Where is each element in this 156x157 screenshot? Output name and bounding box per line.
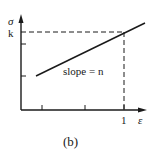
x-axis-arrow-icon: [138, 108, 147, 113]
stress-strain-diagram: σ k slope = n 1 ε (b): [0, 0, 156, 157]
slope-annotation: slope = n: [63, 65, 104, 77]
k-label: k: [8, 27, 14, 39]
y-axis-arrow-icon: [19, 14, 24, 23]
x-axis-label: ε: [138, 114, 143, 126]
x-marker-label: 1: [121, 114, 127, 126]
figure-caption: (b): [63, 134, 78, 149]
y-axis-label: σ: [8, 15, 14, 27]
